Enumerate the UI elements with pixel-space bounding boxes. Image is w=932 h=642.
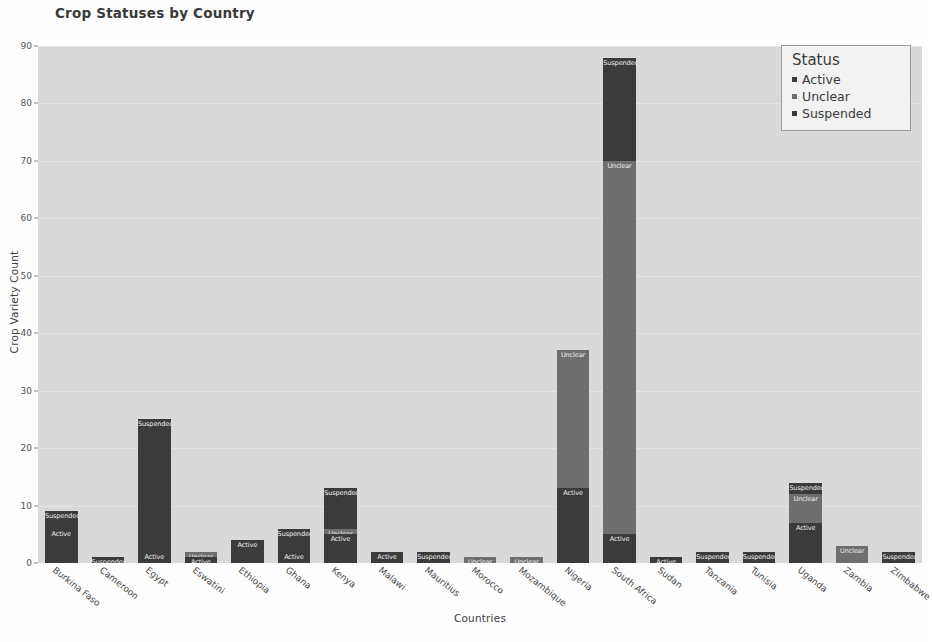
bar-group[interactable]: Unclear [464,46,497,563]
bar-segment-active[interactable]: Active [231,540,264,563]
bar-segment-suspended[interactable]: Suspended [743,552,776,563]
bar-segment-label: Suspended [696,553,729,561]
bar-segment-label: Active [557,489,590,497]
bar-segment-label: Active [278,553,311,561]
legend-items: ActiveUnclearSuspended [792,71,896,122]
x-axis-tick-label: Uganda [796,565,830,594]
y-axis-tick-label: 80 [21,98,32,108]
bar-segment-suspended[interactable]: Suspended [324,488,357,528]
bar-segment-label: Active [789,524,822,532]
legend-item-label: Suspended [802,105,871,122]
bar-segment-active[interactable]: Active [324,534,357,563]
bar-segment-label: Unclear [603,162,636,170]
legend-title: Status [792,52,896,69]
bar-group[interactable]: Active [650,46,683,563]
bar-segment-label: Suspended [603,59,636,67]
x-axis-tick-label: South Africa [609,565,658,607]
y-axis-tick-label: 60 [21,213,32,223]
bar-segment-unclear[interactable]: Unclear [185,552,218,558]
bar-segment-suspended[interactable]: Suspended [696,552,729,563]
bar-group[interactable]: Unclear [510,46,543,563]
bar-segment-active[interactable]: Active [603,534,636,563]
bar-group[interactable]: Suspended [92,46,125,563]
bar-group[interactable]: ActiveSuspended [278,46,311,563]
bar-group[interactable]: ActiveUnclearSuspended [324,46,357,563]
x-axis-tick-label: Zimbabwe [889,565,932,602]
bar-segment-label: Unclear [185,553,218,558]
bar-segment-label: Suspended [417,553,450,561]
legend-item-unclear[interactable]: Unclear [792,88,896,105]
bar-segment-active[interactable]: Active [138,552,171,563]
bar-segment-label: Suspended [789,484,822,492]
y-axis-tick-label: 30 [21,386,32,396]
bar-segment-suspended[interactable]: Suspended [45,511,78,528]
y-axis-tick-label: 90 [21,41,32,51]
bar-segment-active[interactable]: Active [371,552,404,563]
bar-segment-label: Unclear [789,495,822,503]
legend-item-active[interactable]: Active [792,71,896,88]
x-axis-tick-label: Burkina Faso [51,565,102,608]
bar-group[interactable]: ActiveSuspended [138,46,171,563]
x-axis-tick-label: Mauritius [423,565,462,598]
legend-item-suspended[interactable]: Suspended [792,105,896,122]
x-axis-tick-label: Tunisia [749,565,779,592]
bar-group[interactable]: ActiveUnclearSuspended [603,46,636,563]
legend-swatch-icon [792,94,797,99]
bar-segment-label: Active [231,541,264,549]
x-axis: Burkina FasoCameroonEgyptEswatiniEthiopi… [38,563,922,618]
bar-segment-label: Active [324,535,357,543]
bar-segment-label: Suspended [138,420,171,428]
bar-group[interactable]: Active [231,46,264,563]
y-axis-tick-label: 0 [26,558,32,568]
chart-title: Crop Statuses by Country [55,5,255,21]
bar-segment-unclear[interactable]: Unclear [836,546,869,563]
bar-group[interactable]: Active [371,46,404,563]
bar-segment-suspended[interactable]: Suspended [417,552,450,563]
bar-group[interactable]: ActiveUnclear [557,46,590,563]
legend-swatch-icon [792,77,797,82]
bar-segment-suspended[interactable]: Suspended [882,552,915,563]
y-axis-tick-label: 10 [21,501,32,511]
y-axis-tick-label: 50 [21,271,32,281]
x-axis-tick-label: Mozambique [516,565,567,608]
y-axis: Crop Variety Count 0102030405060708090 [0,46,38,563]
x-axis-tick-label: Morocco [470,565,506,596]
bar-segment-label: Active [371,553,404,561]
bar-segment-suspended[interactable]: Suspended [138,419,171,551]
bar-segment-active[interactable]: Active [789,523,822,563]
bar-segment-label: Suspended [882,553,915,561]
y-axis-tick-label: 40 [21,328,32,338]
bar-segment-active[interactable]: Active [278,552,311,563]
x-axis-tick-label: Kenya [330,565,358,590]
bar-group[interactable]: ActiveUnclear [185,46,218,563]
y-axis-tick-label: 70 [21,156,32,166]
bar-segment-suspended[interactable]: Suspended [278,529,311,552]
x-axis-tick-label: Eswatini [191,565,227,596]
y-axis-tick-label: 20 [21,443,32,453]
bar-group[interactable]: Suspended [417,46,450,563]
bar-segment-label: Suspended [324,489,357,497]
legend-swatch-icon [792,111,797,116]
bar-segment-unclear[interactable]: Unclear [603,161,636,534]
x-axis-label: Countries [38,612,922,624]
bar-segment-label: Unclear [836,547,869,555]
bar-segment-label: Active [138,553,171,561]
bar-group[interactable]: Suspended [696,46,729,563]
y-axis-label: Crop Variety Count [8,92,20,512]
bar-segment-label: Suspended [278,530,311,538]
bar-group[interactable]: ActiveSuspended [45,46,78,563]
x-axis-tick-label: Ethiopia [237,565,272,595]
bar-segment-active[interactable]: Active [557,488,590,563]
x-axis-tick-label: Ghana [284,565,313,591]
legend: Status ActiveUnclearSuspended [781,45,911,131]
bar-segment-unclear[interactable]: Unclear [789,494,822,523]
bar-segment-suspended[interactable]: Suspended [789,483,822,494]
bar-segment-unclear[interactable]: Unclear [557,350,590,488]
bar-segment-active[interactable]: Active [45,529,78,563]
bar-segment-suspended[interactable]: Suspended [603,58,636,161]
bar-segment-unclear[interactable]: Unclear [324,529,357,535]
bar-group[interactable]: Suspended [743,46,776,563]
x-axis-tick-label: Cameroon [98,565,141,601]
bar-segment-label: Suspended [743,553,776,561]
